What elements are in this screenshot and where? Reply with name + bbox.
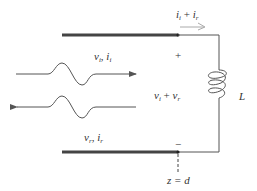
inductor-coil	[208, 70, 226, 104]
bottom-terminal-dot	[176, 150, 179, 153]
inductor-label: L	[238, 90, 245, 102]
minus-sign: −	[175, 138, 181, 150]
load-voltage-label: vi + vr	[154, 89, 180, 103]
transmission-line-diagram: L z = d ii + ir + − vi, ii vi + vr vr, i…	[0, 0, 257, 191]
plus-sign: +	[175, 49, 181, 61]
position-label: z = d	[166, 174, 190, 186]
reflected-wave-label: vr, ir	[84, 131, 103, 145]
reflected-wave-arrow	[17, 96, 136, 118]
bottom-wire	[178, 104, 219, 152]
incident-wave-arrow	[16, 63, 136, 85]
total-current-label: ii + ir	[176, 8, 199, 22]
incident-wave-label: vi, ii	[94, 50, 111, 64]
top-wire	[178, 35, 219, 70]
